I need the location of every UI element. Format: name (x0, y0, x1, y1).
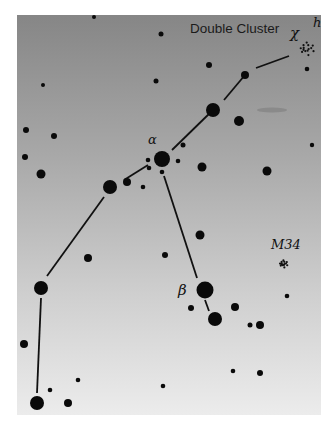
smudge (257, 108, 287, 113)
constellation-line (124, 165, 148, 180)
star (154, 151, 170, 167)
star (181, 143, 186, 148)
beta-label: β (178, 281, 187, 299)
star (256, 321, 264, 329)
constellation-line (256, 56, 289, 68)
star (161, 384, 166, 389)
star (206, 103, 220, 117)
star (41, 83, 45, 87)
star (103, 180, 117, 194)
star (92, 15, 96, 19)
star (23, 127, 29, 133)
star (196, 231, 205, 240)
star (241, 71, 249, 79)
star (305, 67, 310, 72)
star (34, 281, 48, 295)
star (285, 294, 290, 299)
constellation-line (205, 300, 209, 311)
star (248, 323, 253, 328)
constellation-line (37, 298, 41, 393)
star (51, 133, 57, 139)
star (160, 170, 165, 175)
star (263, 167, 272, 176)
m34-cluster-icon (279, 259, 288, 268)
h-label: h (313, 15, 321, 30)
double-cluster-label: Double Cluster (190, 21, 279, 36)
star (159, 32, 164, 37)
star (64, 399, 72, 407)
star (231, 369, 236, 374)
constellation-line (47, 197, 104, 276)
star (208, 312, 222, 326)
star (147, 166, 152, 171)
star (76, 378, 81, 383)
star (30, 396, 44, 410)
chi-label: χ (290, 24, 299, 42)
star (84, 254, 92, 262)
star (310, 143, 314, 147)
double_cluster-cluster-icon (300, 42, 315, 57)
constellation-line (164, 176, 197, 278)
star (206, 62, 212, 68)
m34-label: M34 (271, 237, 301, 252)
star (22, 154, 28, 160)
star (162, 252, 168, 258)
star (176, 159, 181, 164)
chart-overlay (0, 0, 336, 428)
star (198, 163, 207, 172)
star (188, 305, 194, 311)
star (141, 185, 146, 190)
star (146, 158, 151, 163)
star (154, 79, 159, 84)
alpha-label: α (148, 132, 157, 147)
star (231, 303, 239, 311)
star (20, 340, 28, 348)
star (48, 388, 53, 393)
constellation-line (172, 110, 213, 150)
constellation-line (224, 75, 245, 100)
star (197, 282, 214, 299)
star (37, 170, 46, 179)
star (234, 116, 244, 126)
star (123, 178, 131, 186)
star (257, 370, 263, 376)
